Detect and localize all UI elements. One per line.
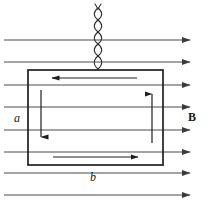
figure-canvas xyxy=(0,0,208,209)
label-side-a: a xyxy=(14,112,20,124)
label-magnetic-field: B xyxy=(188,111,196,123)
twisted-wire-icon xyxy=(94,4,102,69)
magnetic-field-lines xyxy=(4,40,190,195)
physics-figure: a b B xyxy=(0,0,208,209)
current-loop-rectangle xyxy=(28,70,163,165)
label-side-b: b xyxy=(90,171,96,183)
